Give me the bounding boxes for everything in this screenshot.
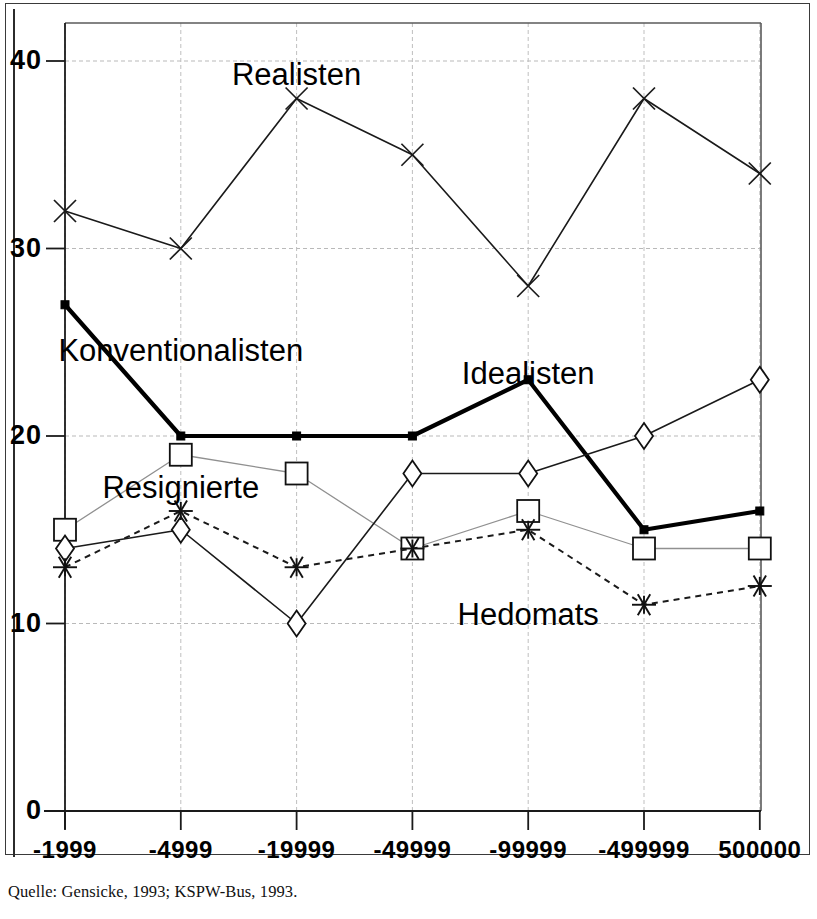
figure-container: 010203040 -1999-4999-19999-49999-99999-4… — [0, 0, 817, 919]
x-tick-label: -49999 — [374, 836, 452, 863]
y-tick-label: 40 — [10, 45, 42, 75]
y-tick-label: 20 — [10, 420, 42, 450]
y-tick-label: 30 — [10, 233, 42, 263]
x-tick-label: -99999 — [489, 836, 567, 863]
x-tick-label: -4999 — [149, 836, 213, 863]
series-label-hedomats: Hedomats — [458, 597, 599, 632]
series-label-resignierte: Resignierte — [102, 470, 259, 505]
gridlines-group — [65, 23, 761, 811]
x-tick-label: -499999 — [598, 836, 690, 863]
y-tick-label: 10 — [10, 608, 42, 638]
x-tick-labels: -1999-4999-19999-49999-99999-49999950000… — [33, 836, 801, 863]
x-tick-label: 500000 — [718, 836, 801, 863]
series-label-realisten: Realisten — [232, 57, 361, 92]
x-tick-label: -19999 — [258, 836, 336, 863]
source-caption: Quelle: Gensicke, 1993; KSPW-Bus, 1993. — [8, 882, 708, 902]
y-tick-label: 0 — [26, 795, 42, 825]
series-label-idealisten: Idealisten — [462, 356, 595, 391]
y-tick-labels: 010203040 — [10, 45, 42, 825]
series-label-konventionalisten: Konventionalisten — [58, 333, 303, 368]
x-tick-label: -1999 — [33, 836, 97, 863]
line-chart: 010203040 -1999-4999-19999-49999-99999-4… — [0, 0, 817, 919]
series-annotations: RealistenKonventionalistenResignierteIde… — [58, 57, 598, 632]
